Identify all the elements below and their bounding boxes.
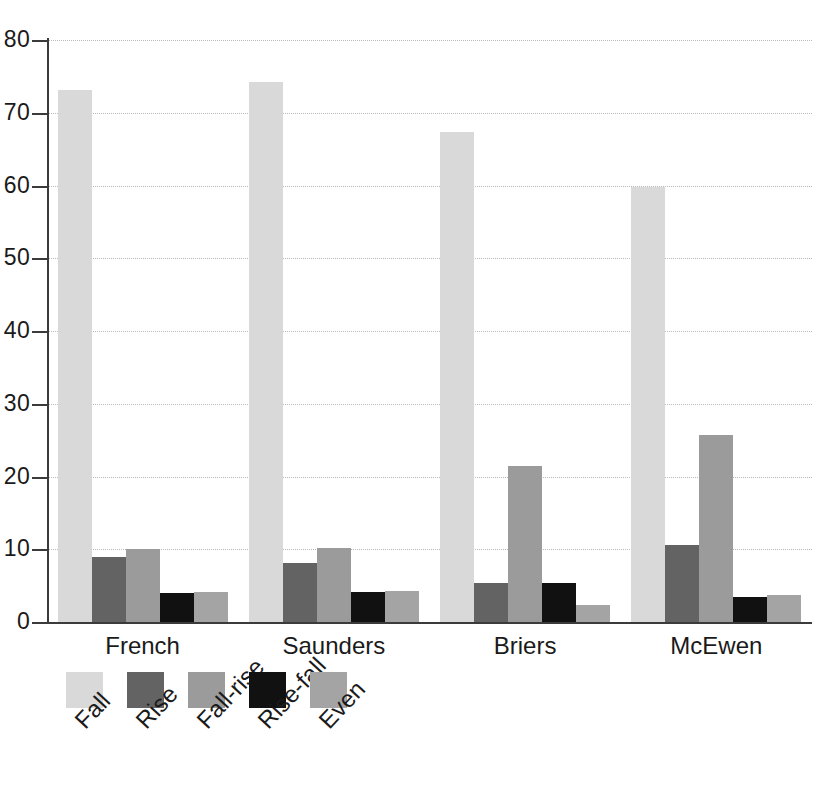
bar[interactable] [283, 563, 317, 622]
y-axis-tick-20 [32, 477, 47, 479]
legend-item[interactable]: Even [310, 672, 347, 708]
y-axis-tick-10 [32, 549, 47, 551]
y-axis-tick-50 [32, 258, 47, 260]
legend-item[interactable]: Fall-rise [188, 672, 225, 708]
y-axis-tick-label: 0 [0, 610, 30, 633]
bar-group [249, 40, 419, 622]
bar[interactable] [665, 545, 699, 622]
bar-chart-figure: 01020304050607080 FrenchSaundersBriersMc… [0, 0, 825, 806]
y-axis-tick-70 [32, 113, 47, 115]
bar[interactable] [542, 583, 576, 622]
bar[interactable] [126, 549, 160, 622]
bar[interactable] [631, 187, 665, 622]
y-axis-tick-label: 30 [0, 392, 30, 415]
y-axis-tick-label: 20 [0, 465, 30, 488]
bar[interactable] [58, 90, 92, 622]
y-axis-tick-label: 60 [0, 174, 30, 197]
bar-group [440, 40, 610, 622]
bar[interactable] [351, 592, 385, 622]
y-axis-tick-40 [32, 331, 47, 333]
bar[interactable] [249, 82, 283, 622]
legend-item[interactable]: Fall [66, 672, 103, 708]
legend-item[interactable]: Rise [127, 672, 164, 708]
y-axis-tick-label: 50 [0, 246, 30, 269]
bar[interactable] [576, 605, 610, 622]
bar[interactable] [767, 595, 801, 622]
bar[interactable] [317, 548, 351, 622]
bar[interactable] [440, 132, 474, 622]
bar[interactable] [508, 466, 542, 622]
x-axis-line [47, 622, 812, 624]
y-axis-tick-label: 80 [0, 28, 30, 51]
plot-area [47, 40, 812, 622]
bar[interactable] [733, 597, 767, 622]
bar[interactable] [160, 593, 194, 622]
bar[interactable] [474, 583, 508, 622]
x-axis-category-label: McEwen [601, 632, 825, 660]
y-axis-tick-80 [32, 40, 47, 42]
y-axis-tick-label: 40 [0, 319, 30, 342]
y-axis-tick-30 [32, 404, 47, 406]
y-axis-tick-0 [32, 622, 47, 624]
bar[interactable] [385, 591, 419, 622]
legend: FallRiseFall-riseRise-fallEven [0, 672, 825, 806]
bar[interactable] [92, 557, 126, 622]
y-axis-line [47, 38, 49, 624]
y-axis-tick-label: 10 [0, 537, 30, 560]
bar-group [58, 40, 228, 622]
bar[interactable] [194, 592, 228, 622]
y-axis-tick-label: 70 [0, 101, 30, 124]
legend-item[interactable]: Rise-fall [249, 672, 286, 708]
bar-group [631, 40, 801, 622]
bar[interactable] [699, 435, 733, 622]
y-axis-tick-60 [32, 186, 47, 188]
